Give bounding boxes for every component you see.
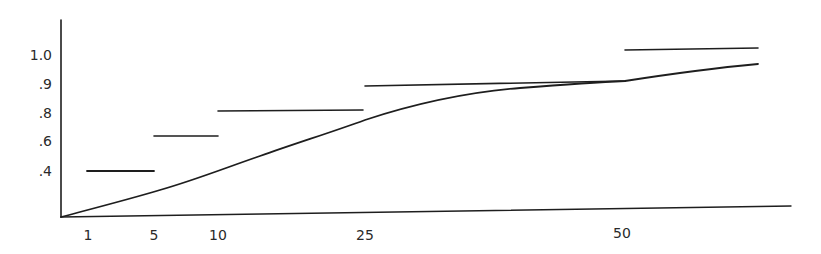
step-segment-0.8 [218, 110, 363, 111]
x-tick-label: 25 [356, 227, 374, 243]
x-tick-labels: 1 5 10 25 50 [84, 225, 631, 243]
x-tick-label: 1 [84, 227, 93, 243]
step-chart: 1.0 .9 .8 .6 .4 1 5 10 25 50 [0, 0, 821, 254]
x-tick-label: 10 [209, 227, 227, 243]
smooth-curve [61, 64, 758, 217]
step-segment-1.0 [625, 48, 758, 50]
y-tick-label: .4 [39, 163, 52, 179]
y-tick-label: 1.0 [30, 47, 52, 63]
y-tick-labels: 1.0 .9 .8 .6 .4 [30, 47, 52, 179]
x-tick-label: 5 [150, 227, 159, 243]
step-series [87, 48, 758, 171]
y-tick-label: .6 [39, 133, 52, 149]
y-tick-label: .9 [39, 76, 52, 92]
x-tick-label: 50 [613, 225, 631, 241]
y-tick-label: .8 [39, 105, 52, 121]
x-axis [61, 206, 791, 217]
